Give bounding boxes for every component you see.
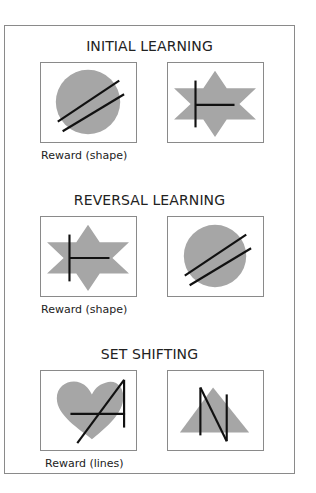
star-with-T-lines-icon [168,63,263,142]
section-title-initial-learning: INITIAL LEARNING [5,38,294,54]
circle-with-diagonal-lines-icon [41,63,136,142]
reward-caption-reversal: Reward (shape) [41,303,127,316]
heart-with-A-lines-icon [41,371,136,450]
figure-frame: INITIAL LEARNING Reward (shape) REVERSAL… [4,25,295,474]
reward-caption-set-shifting: Reward (lines) [45,457,124,470]
stimulus-card-heart-lines [40,370,137,451]
stimulus-card-star-lines [167,62,264,143]
triangle-with-N-lines-icon [168,371,263,450]
stimulus-card-triangle-lines [167,370,264,451]
stimulus-card-circle-lines [167,216,264,297]
star-with-T-lines-icon [41,217,136,296]
circle-with-diagonal-lines-icon [168,217,263,296]
section-title-reversal-learning: REVERSAL LEARNING [5,192,294,208]
stimulus-card-circle-lines [40,62,137,143]
stimulus-card-star-lines [40,216,137,297]
section-title-set-shifting: SET SHIFTING [5,346,294,362]
reward-caption-initial: Reward (shape) [41,149,127,162]
